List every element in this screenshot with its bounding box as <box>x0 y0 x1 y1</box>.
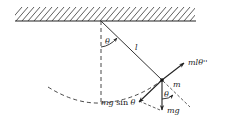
tangential-gravity-theta: θ <box>131 98 136 107</box>
hatch-mark <box>28 7 40 21</box>
hatch-mark <box>70 7 82 21</box>
hatch-mark <box>184 7 196 21</box>
tangential-gravity-mg: mg <box>101 98 116 107</box>
hatch-mark <box>196 7 208 21</box>
hatch-mark <box>106 7 118 21</box>
hatch-mark <box>190 7 202 21</box>
hatch-mark <box>64 7 76 21</box>
hatch-mark <box>124 7 136 21</box>
hatch-mark <box>46 7 58 21</box>
theta-top-label: θ <box>105 37 110 46</box>
mass-label: m <box>173 80 181 89</box>
ceiling-hatching <box>10 7 220 21</box>
hatch-mark <box>142 7 154 21</box>
pendulum-string <box>101 21 162 80</box>
hatch-mark <box>208 7 220 21</box>
hatch-mark <box>166 7 178 21</box>
hatch-mark <box>10 7 22 21</box>
hatch-mark <box>88 7 100 21</box>
tangential-gravity-label: mg sin θ <box>101 98 136 107</box>
weight-label: mg <box>167 106 180 115</box>
tangential-inertia-label: mlθ'' <box>188 58 207 67</box>
component-dashed-line <box>139 101 160 110</box>
hatch-mark <box>118 7 130 21</box>
hatch-mark <box>148 7 160 21</box>
pendulum-diagram: θ l mlθ'' m θ mg sin θ mg <box>0 0 225 138</box>
hatch-mark <box>82 7 94 21</box>
hatch-mark <box>100 7 112 21</box>
hatch-mark <box>76 7 88 21</box>
hatch-mark <box>40 7 52 21</box>
theta-bob-label: θ <box>164 90 169 99</box>
hatch-mark <box>172 7 184 21</box>
hatch-mark <box>22 7 34 21</box>
hatch-mark <box>160 7 172 21</box>
hatch-mark <box>202 7 214 21</box>
tangential-gravity-arrow <box>139 80 162 102</box>
hatch-mark <box>154 7 166 21</box>
hatch-mark <box>178 7 190 21</box>
hatch-mark <box>136 7 148 21</box>
hatch-mark <box>34 7 46 21</box>
tangential-gravity-sin: sin <box>116 98 130 107</box>
hatch-mark <box>130 7 142 21</box>
pendulum-bob <box>160 78 164 82</box>
hatch-mark <box>58 7 70 21</box>
length-label: l <box>135 43 138 52</box>
hatch-mark <box>112 7 124 21</box>
hatch-mark <box>94 7 106 21</box>
hatch-mark <box>52 7 64 21</box>
tangential-inertia-arrow <box>162 63 184 80</box>
hatch-mark <box>16 7 28 21</box>
